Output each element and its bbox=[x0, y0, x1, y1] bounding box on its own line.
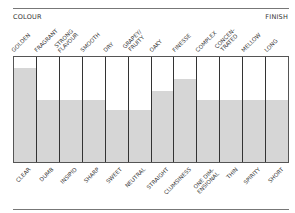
bar bbox=[243, 100, 265, 162]
bar-column bbox=[243, 57, 266, 162]
bar bbox=[106, 110, 128, 163]
bar-column bbox=[60, 57, 83, 162]
finish-label: FINISH bbox=[265, 13, 288, 21]
bar bbox=[14, 68, 36, 163]
top-label: FINESSE bbox=[172, 34, 192, 54]
bar bbox=[266, 100, 288, 162]
top-label: OAKY bbox=[149, 39, 164, 54]
bar-column bbox=[37, 57, 60, 162]
bar-column bbox=[174, 57, 197, 162]
bar bbox=[220, 100, 242, 162]
top-label: SMOOTH bbox=[80, 32, 102, 54]
top-axis-labels: GOLDEN FRAGRANT STRONG FLAVOUR SMOOTH DR… bbox=[13, 22, 289, 56]
bar bbox=[197, 100, 219, 162]
bar bbox=[152, 91, 174, 162]
top-label: MELLOW bbox=[241, 33, 262, 54]
top-label: GOLDEN bbox=[11, 33, 32, 54]
bar bbox=[37, 100, 59, 162]
bar-plot bbox=[13, 56, 289, 163]
bar-column bbox=[152, 57, 175, 162]
bottom-rule bbox=[13, 209, 289, 210]
top-label: LONG bbox=[264, 39, 279, 54]
bottom-axis-labels: CLEAR DUMB INSIPID SHARP SWEET NEUTRAL S… bbox=[13, 165, 289, 205]
category-label: INSIPID bbox=[60, 167, 78, 185]
category-label: CLEAR bbox=[15, 167, 32, 184]
bar bbox=[60, 100, 82, 162]
colour-label: COLOUR bbox=[13, 13, 42, 21]
category-label: SHARP bbox=[84, 167, 101, 184]
bar-column bbox=[220, 57, 243, 162]
bar bbox=[129, 110, 151, 163]
category-label: SHORT bbox=[268, 167, 285, 184]
bar-column bbox=[129, 57, 152, 162]
bar bbox=[83, 100, 105, 162]
category-label: SWEET bbox=[106, 167, 124, 185]
bar-column bbox=[266, 57, 288, 162]
bar bbox=[174, 79, 196, 162]
category-label: NEUTRAL bbox=[125, 167, 147, 189]
bar-column bbox=[197, 57, 220, 162]
category-label: THIN bbox=[225, 167, 238, 180]
top-rule bbox=[13, 8, 289, 9]
category-label: ONE DIM- ENSIONAL bbox=[192, 167, 220, 195]
category-label: SPIRITY bbox=[243, 167, 262, 186]
bar-column bbox=[14, 57, 37, 162]
top-label: DRY bbox=[103, 42, 115, 54]
category-label: DUMB bbox=[39, 167, 55, 183]
bar-column bbox=[106, 57, 129, 162]
bar-column bbox=[83, 57, 106, 162]
